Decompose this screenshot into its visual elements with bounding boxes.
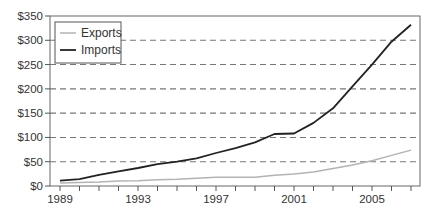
x-axis: 19891993199720012005: [47, 186, 411, 205]
y-axis: $0$50$100$150$200$250$300$350: [17, 10, 50, 192]
x-tick-label: 2001: [281, 193, 307, 205]
y-tick-label: $200: [17, 83, 43, 95]
series-line-exports: [60, 150, 411, 183]
legend-label-exports: Exports: [81, 26, 122, 40]
y-tick-label: $100: [17, 131, 43, 143]
y-tick-label: $250: [17, 59, 43, 71]
x-tick-label: 1989: [47, 193, 73, 205]
y-tick-label: $300: [17, 34, 43, 46]
x-tick-label: 2005: [359, 193, 385, 205]
y-tick-label: $150: [17, 107, 43, 119]
line-chart: $0$50$100$150$200$250$300$350 1989199319…: [0, 0, 437, 217]
y-tick-label: $0: [30, 180, 43, 192]
legend-label-imports: Imports: [81, 43, 121, 57]
y-tick-label: $50: [24, 156, 43, 168]
legend: Exports Imports: [55, 22, 122, 63]
x-tick-label: 1997: [203, 193, 229, 205]
y-tick-label: $350: [17, 10, 43, 22]
x-tick-label: 1993: [125, 193, 151, 205]
